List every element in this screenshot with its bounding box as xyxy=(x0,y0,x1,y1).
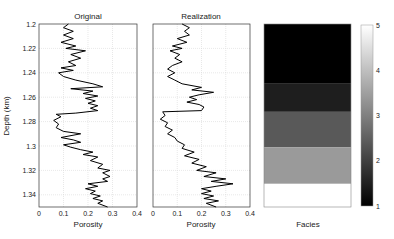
original-axes-box xyxy=(39,24,137,207)
realization-xlabel: Porosity xyxy=(187,220,216,229)
realization-axes-box xyxy=(153,24,250,207)
x-tick-label: 0 xyxy=(151,210,155,217)
figure: Original 1.21.221.241.261.281.31.321.34 … xyxy=(0,0,394,239)
facies-band xyxy=(264,24,351,84)
colorbar-tick-label: 3 xyxy=(376,112,380,119)
colorbar-tick-label: 5 xyxy=(376,22,380,29)
x-tick-label: 0 xyxy=(37,210,41,217)
facies-band xyxy=(264,184,351,207)
y-tick-label: 1.24 xyxy=(22,69,36,76)
x-tick-label: 0.1 xyxy=(172,210,182,217)
original-grid xyxy=(39,24,137,207)
facies-bands xyxy=(264,24,351,207)
x-tick-label: 0.4 xyxy=(245,210,255,217)
x-tick-label: 0.3 xyxy=(108,210,118,217)
facies-band xyxy=(264,112,351,147)
y-tick-label: 1.28 xyxy=(22,118,36,125)
x-tick-label: 0.1 xyxy=(59,210,69,217)
colorbar-tick-label: 1 xyxy=(376,203,380,210)
original-panel: Original 1.21.221.241.261.281.31.321.34 … xyxy=(2,12,142,229)
facies-band xyxy=(264,147,351,184)
original-xlabel: Porosity xyxy=(74,220,103,229)
original-title: Original xyxy=(74,12,102,21)
y-tick-label: 1.2 xyxy=(26,21,36,28)
original-x-tick-labels: 00.10.20.30.4 xyxy=(37,210,142,217)
colorbar: 12345 xyxy=(361,22,380,210)
realization-grid xyxy=(153,24,250,207)
x-tick-label: 0.2 xyxy=(83,210,93,217)
realization-porosity-line xyxy=(160,24,233,207)
original-porosity-line xyxy=(54,24,110,207)
y-tick-label: 1.22 xyxy=(22,45,36,52)
depth-tick-labels: 1.21.221.241.261.281.31.321.34 xyxy=(22,21,36,199)
y-tick-label: 1.26 xyxy=(22,94,36,101)
y-tick-label: 1.34 xyxy=(22,191,36,198)
colorbar-tick-label: 4 xyxy=(376,67,380,74)
facies-band xyxy=(264,84,351,112)
colorbar-tick-label: 2 xyxy=(376,157,380,164)
colorbar-gradient xyxy=(361,25,373,206)
colorbar-tick-labels: 12345 xyxy=(376,22,380,210)
y-tick-label: 1.3 xyxy=(26,143,36,150)
depth-axis-label: Depth (km) xyxy=(2,96,11,136)
x-tick-label: 0.4 xyxy=(132,210,142,217)
y-tick-label: 1.32 xyxy=(22,167,36,174)
facies-panel: Facies xyxy=(264,24,351,229)
x-tick-label: 0.2 xyxy=(197,210,207,217)
realization-title: Realization xyxy=(181,12,221,21)
facies-xlabel: Facies xyxy=(296,220,320,229)
realization-x-tick-labels: 00.10.20.30.4 xyxy=(151,210,255,217)
realization-panel: Realization 00.10.20.30.4 Porosity xyxy=(151,12,255,229)
x-tick-label: 0.3 xyxy=(221,210,231,217)
